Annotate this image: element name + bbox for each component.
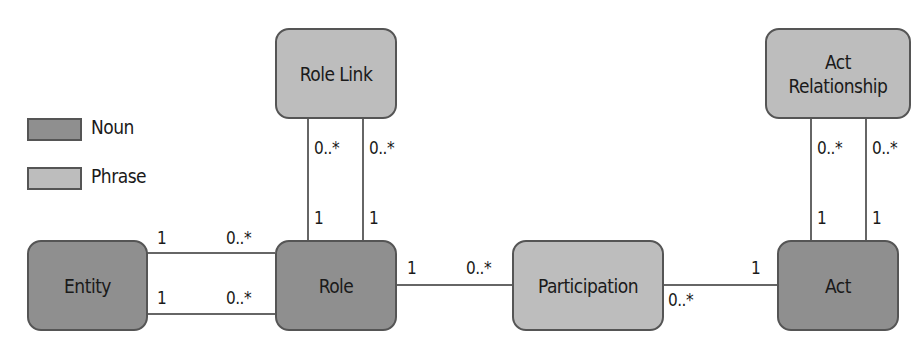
mult-entity-role-bottom-to: 0..* [226,288,251,308]
edge-entity-role-top [147,252,275,254]
node-role-link[interactable]: Role Link [275,28,397,119]
mult-role-participation-to: 0..* [466,258,491,278]
node-participation[interactable]: Participation [512,240,664,331]
node-role[interactable]: Role [275,240,397,331]
node-act[interactable]: Act [777,240,899,331]
node-entity-label: Entity [64,274,111,298]
legend-phrase-label: Phrase [91,165,146,187]
node-entity[interactable]: Entity [27,240,148,331]
mult-rolelink-left-top: 0..* [314,138,339,158]
mult-entity-role-bottom-from: 1 [157,288,166,308]
mult-actrel-right-bottom: 1 [872,208,881,228]
mult-role-participation-from: 1 [407,258,416,278]
node-act-relationship-line2: Relationship [789,74,888,98]
edge-role-participation [397,284,512,286]
edge-rolelink-role-left [307,118,309,240]
mult-rolelink-left-bottom: 1 [314,208,323,228]
mult-entity-role-top-to: 0..* [226,228,251,248]
legend-phrase-swatch [27,167,82,190]
mult-entity-role-top-from: 1 [157,228,166,248]
mult-participation-act-to: 1 [751,258,760,278]
edge-participation-act [663,284,777,286]
mult-rolelink-right-top: 0..* [369,138,394,158]
edge-entity-role-bottom [147,313,275,315]
node-role-link-label: Role Link [300,62,373,86]
mult-actrel-left-bottom: 1 [817,208,826,228]
legend-noun-swatch [27,118,82,141]
mult-participation-act-from: 0..* [668,290,693,310]
mult-actrel-right-top: 0..* [872,138,897,158]
node-act-relationship[interactable]: Act Relationship [765,28,911,119]
node-act-relationship-line1: Act [825,50,851,74]
mult-rolelink-right-bottom: 1 [369,208,378,228]
node-act-label: Act [825,274,851,298]
mult-actrel-left-top: 0..* [817,138,842,158]
legend-noun-label: Noun [91,116,134,138]
node-role-label: Role [319,274,354,298]
node-participation-label: Participation [538,274,638,298]
edge-rolelink-role-right [362,118,364,240]
edge-actrel-act-left [810,118,812,240]
edge-actrel-act-right [865,118,867,240]
